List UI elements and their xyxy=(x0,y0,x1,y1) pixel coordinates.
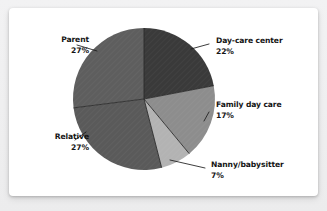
pie-label-nanny-babysitter-value: 7% xyxy=(211,171,284,182)
pie-label-parent: Parent 27% xyxy=(61,35,89,56)
pie-label-relative-name: Relative xyxy=(55,132,89,141)
pie-label-nanny-babysitter: Nanny/babysitter 7% xyxy=(211,160,284,181)
leader-line-nanny-babysitter xyxy=(170,160,205,168)
chart-card: Day-care center 22% Family day care 17% … xyxy=(9,8,318,196)
pie-label-nanny-babysitter-name: Nanny/babysitter xyxy=(211,160,284,169)
pie-label-day-care-center-value: 22% xyxy=(216,47,283,58)
leader-line-day-care-center xyxy=(191,44,209,49)
pie-label-relative: Relative 27% xyxy=(55,132,89,153)
pie-label-family-day-care: Family day care 17% xyxy=(216,100,282,121)
pie-label-family-day-care-name: Family day care xyxy=(216,100,282,109)
pie-chart: Day-care center 22% Family day care 17% … xyxy=(9,8,318,196)
pie-label-family-day-care-value: 17% xyxy=(216,111,282,122)
pie-label-parent-value: 27% xyxy=(61,46,89,57)
pie-label-day-care-center: Day-care center 22% xyxy=(216,36,283,57)
pie-label-relative-value: 27% xyxy=(55,143,89,154)
pie-label-parent-name: Parent xyxy=(61,35,89,44)
pie-label-day-care-center-name: Day-care center xyxy=(216,36,283,45)
